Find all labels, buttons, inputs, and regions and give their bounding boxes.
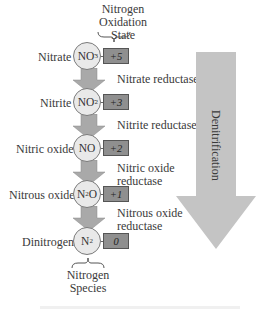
species-name-nitrite: Nitrite xyxy=(40,97,71,110)
formula-base: NO xyxy=(79,142,96,154)
species-name-nitrate: Nitrate xyxy=(38,51,71,64)
oxidation-state-box: +2 xyxy=(103,140,129,156)
enzyme-nitrous-oxide-reductase: Nitrous oxide reductase xyxy=(117,207,183,233)
enzyme-nitric-oxide-reductase: Nitric oxide reductase xyxy=(117,162,175,188)
formula-sub: 2 xyxy=(89,237,93,245)
species-circle-nitrous-oxide: N2O xyxy=(73,180,101,208)
oxidation-state-box: +1 xyxy=(103,186,129,202)
formula-sup: - xyxy=(94,50,96,58)
species-name-nitrous-oxide: Nitrous oxide xyxy=(9,189,75,202)
enzyme-line-2: reductase xyxy=(117,175,175,188)
species-circle-dinitrogen: N2 xyxy=(73,227,101,255)
species-circle-nitric-oxide: NO xyxy=(73,134,101,162)
formula-tail: O xyxy=(89,188,97,200)
formula-base: N xyxy=(81,235,89,247)
denitrification-label: Denitrification xyxy=(209,110,222,181)
nitrogen-species-label: Nitrogen Species xyxy=(58,269,118,295)
species-name-nitric-oxide: Nitric oxide xyxy=(16,143,74,156)
header-brace-icon xyxy=(96,30,132,44)
faint-caption-line xyxy=(40,306,240,309)
enzyme-line-2: reductase xyxy=(117,220,183,233)
formula-base: NO xyxy=(78,50,95,62)
species-circle-nitrite: NO2- xyxy=(73,88,101,116)
species-circle-nitrate: NO3- xyxy=(73,42,101,70)
formula-sup: - xyxy=(94,96,96,104)
oxidation-state-box: 0 xyxy=(103,233,129,249)
formula-base: NO xyxy=(78,96,95,108)
formula-base: N xyxy=(77,188,85,200)
oxidation-state-box: +5 xyxy=(103,48,129,64)
oxidation-state-box: +3 xyxy=(103,94,129,110)
footer-line-2: Species xyxy=(58,282,118,295)
species-name-dinitrogen: Dinitrogen xyxy=(22,236,74,249)
